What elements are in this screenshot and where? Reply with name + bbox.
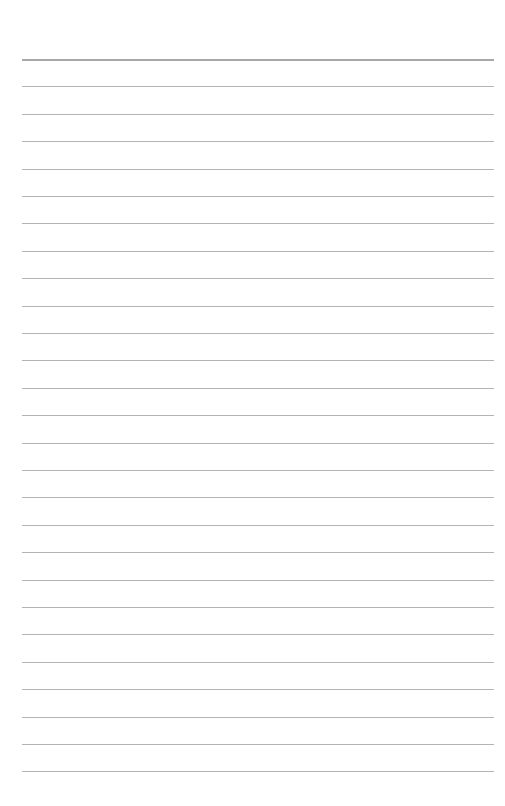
ruled-line [22,251,494,252]
ruled-line [22,470,494,471]
ruled-line [22,86,494,87]
ruled-line [22,333,494,334]
ruled-line [22,415,494,416]
ruled-line [22,114,494,115]
ruled-line [22,552,494,553]
ruled-line [22,278,494,279]
ruled-line [22,744,494,745]
ruled-line [22,771,494,772]
ruled-line [22,717,494,718]
lined-paper-page [0,0,505,806]
ruled-line [22,662,494,663]
ruled-line [22,443,494,444]
ruled-line [22,169,494,170]
ruled-line [22,497,494,498]
ruled-line [22,196,494,197]
ruled-line [22,141,494,142]
ruled-line [22,525,494,526]
ruled-line [22,388,494,389]
ruled-line [22,306,494,307]
ruled-line [22,360,494,361]
ruled-line [22,223,494,224]
ruled-line [22,607,494,608]
ruled-line [22,689,494,690]
ruled-line [22,580,494,581]
ruled-line [22,634,494,635]
ruled-line [22,59,494,61]
